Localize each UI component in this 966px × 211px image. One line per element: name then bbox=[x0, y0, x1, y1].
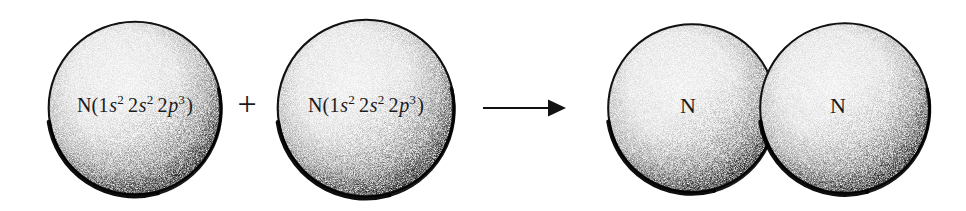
reactant-2-orbital-1-electrons: 2 bbox=[348, 92, 356, 107]
reactant-1-orbital-2-electrons: 2 bbox=[147, 92, 155, 107]
reactant-2-orbital-2-shell: 2 bbox=[359, 94, 369, 116]
reactant-2-orbital-2-electrons: 2 bbox=[378, 92, 386, 107]
reactant-1-orbital-1-electrons: 2 bbox=[117, 92, 125, 107]
reactant-1-orbital-1-subshell: s bbox=[109, 94, 117, 116]
reactant-2-orbital-3-shell: 2 bbox=[388, 94, 398, 116]
diagram-stage: N(1s22s22p3) + N(1s22s22p3) N N bbox=[0, 0, 966, 211]
reactant-1-open-paren: ( bbox=[92, 94, 99, 116]
reactant-1-orbital-1-shell: 1 bbox=[98, 94, 108, 116]
reactant-2-label: N(1s22s22p3) bbox=[308, 95, 424, 115]
chemistry-reaction-figure: Formation of a nitrogen molecule from tw… bbox=[0, 0, 966, 211]
reactant-1-orbital-3-subshell: p bbox=[168, 94, 179, 116]
product-atom-left-label: N bbox=[680, 95, 696, 117]
reactant-2-close-paren: ) bbox=[417, 94, 424, 116]
reactant-1-element: N bbox=[77, 94, 92, 116]
product-atom-right-label: N bbox=[830, 95, 846, 117]
reactant-1-orbital-2-shell: 2 bbox=[128, 94, 138, 116]
reactant-2-open-paren: ( bbox=[323, 94, 330, 116]
plus-sign: + bbox=[237, 87, 256, 121]
reactant-2-orbital-2-subshell: s bbox=[369, 94, 377, 116]
reactant-1-label: N(1s22s22p3) bbox=[77, 95, 193, 115]
reactant-1-orbital-3-shell: 2 bbox=[157, 94, 167, 116]
reactant-1-orbital-2-subshell: s bbox=[138, 94, 146, 116]
reactant-2-orbital-3-subshell: p bbox=[399, 94, 410, 116]
reactant-2-orbital-1-subshell: s bbox=[340, 94, 348, 116]
reactant-2-element: N bbox=[308, 94, 323, 116]
reactant-2-orbital-1-shell: 1 bbox=[329, 94, 339, 116]
reactant-1-close-paren: ) bbox=[186, 94, 193, 116]
